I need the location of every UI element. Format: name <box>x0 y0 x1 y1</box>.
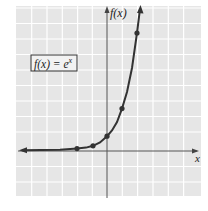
x-axis-label: x <box>194 152 200 164</box>
point-2 <box>134 30 139 35</box>
point-neg1 <box>90 143 95 148</box>
point-0 <box>104 134 109 139</box>
function-label: f(x) = ex <box>34 56 73 71</box>
point-neg2 <box>74 146 79 151</box>
exponential-chart: f(x) x f(x) = ex <box>0 0 208 211</box>
y-axis-label: f(x) <box>110 6 127 20</box>
point-1 <box>119 106 124 111</box>
